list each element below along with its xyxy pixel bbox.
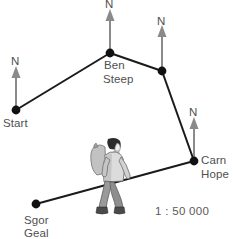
point-label-sgor-geal-line2: Geal bbox=[24, 227, 49, 239]
north-arrow-junction bbox=[158, 25, 167, 71]
route-leg-start-to-ben-steep bbox=[16, 53, 110, 110]
vertex-sgor-geal bbox=[32, 200, 41, 209]
map-vector-layer bbox=[0, 0, 233, 239]
north-label-ben-steep: N bbox=[105, 0, 113, 10]
north-label-junction: N bbox=[157, 15, 165, 27]
north-arrow-start bbox=[12, 66, 21, 110]
hiker-backpack-strap bbox=[94, 143, 98, 148]
point-label-start: Start bbox=[3, 117, 28, 130]
north-arrow-ben-steep bbox=[106, 9, 115, 53]
vertex-start bbox=[12, 106, 21, 115]
walking-hiker-figure bbox=[91, 138, 130, 214]
map-scale-label: 1 : 50 000 bbox=[155, 205, 209, 217]
vertex-junction bbox=[158, 67, 167, 76]
point-label-sgor-geal-line1: Sgor bbox=[24, 214, 49, 227]
hiker-boot-back bbox=[96, 207, 108, 214]
point-label-ben-steep-line1: Ben bbox=[104, 59, 125, 72]
north-label-carn-hope: N bbox=[189, 106, 197, 118]
vertex-carn-hope bbox=[190, 157, 199, 166]
route-sketch-map: N N N N Start Ben Steep Carn Hope Sgor G… bbox=[0, 0, 233, 239]
vertex-ben-steep bbox=[106, 49, 115, 58]
point-label-ben-steep-line2: Steep bbox=[103, 73, 134, 86]
point-label-carn-hope-line1: Carn bbox=[201, 154, 226, 167]
hiker-leg-front bbox=[110, 182, 123, 210]
point-label-carn-hope-line2: Hope bbox=[201, 168, 229, 181]
north-label-start: N bbox=[11, 55, 19, 67]
hiker-boot-front bbox=[114, 207, 125, 214]
